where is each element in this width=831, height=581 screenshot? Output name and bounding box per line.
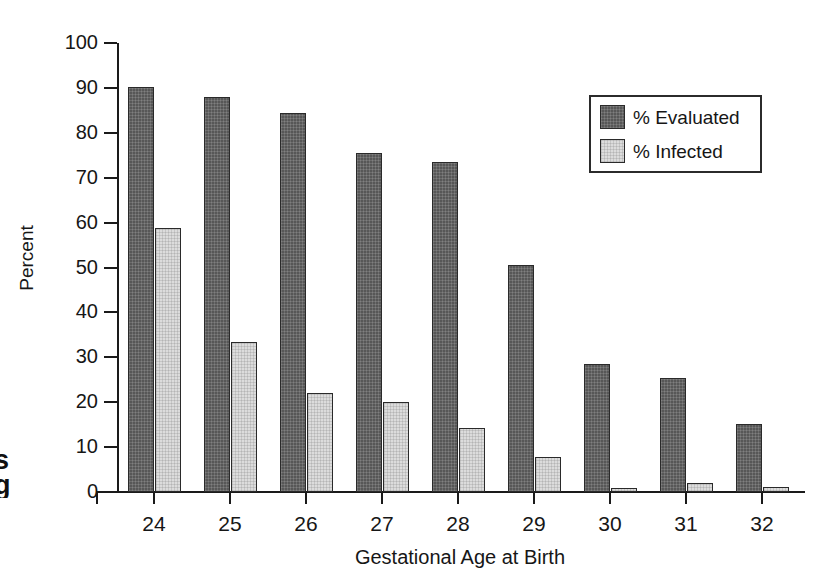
x-axis-tick (153, 492, 155, 504)
x-axis-tick-label: 25 (190, 512, 270, 536)
y-axis-tick-label-wrap: 20 (20, 391, 98, 411)
legend-label-evaluated: % Evaluated (633, 108, 740, 127)
bar-evaluated-27 (356, 153, 382, 492)
x-axis-tick-label: 31 (646, 512, 726, 536)
x-axis-tick-label: 26 (266, 512, 346, 536)
bar-infected-29 (535, 457, 561, 492)
y-axis-tick (104, 356, 117, 358)
y-axis-tick-label: 60 (28, 212, 98, 232)
x-axis-tick (533, 492, 535, 504)
y-axis-tick-label-wrap: 40 (20, 301, 98, 321)
y-axis-tick (104, 311, 117, 313)
y-axis-tick (104, 87, 117, 89)
x-axis-title: Gestational Age at Birth (118, 546, 802, 568)
y-axis-tick-label-wrap: 30 (20, 346, 98, 366)
y-axis-tick-label-wrap: 90 (20, 77, 98, 97)
x-axis-tick-label: 30 (570, 512, 650, 536)
bar-infected-28 (459, 428, 485, 492)
y-axis-tick-label: 100 (28, 32, 98, 52)
x-axis-tick (381, 492, 383, 504)
y-axis-tick-label-wrap: 10 (20, 436, 98, 456)
bar-evaluated-31 (660, 378, 686, 492)
y-axis-tick-label-wrap: 0 (20, 481, 98, 501)
y-axis-tick (104, 132, 117, 134)
page-margin-text-fragment: s g (0, 448, 20, 498)
y-axis-tick-label-wrap: 80 (20, 122, 98, 142)
bar-evaluated-30 (584, 364, 610, 492)
x-axis-tick (457, 492, 459, 504)
y-axis-tick-label-wrap: 60 (20, 212, 98, 232)
x-axis-tick (305, 492, 307, 504)
bar-evaluated-24 (128, 87, 154, 492)
bar-evaluated-28 (432, 162, 458, 492)
bar-infected-30 (611, 488, 637, 492)
x-axis-leading-tick (96, 492, 98, 504)
bar-evaluated-25 (204, 97, 230, 492)
bar-chart-figure: s g Percent 0102030405060708090100 24252… (0, 0, 831, 581)
x-axis-tick (761, 492, 763, 504)
x-axis-tick-label: 27 (342, 512, 422, 536)
y-axis-tick-label: 50 (28, 257, 98, 277)
y-axis-tick-label: 10 (28, 436, 98, 456)
legend-swatch-infected-icon (600, 139, 625, 163)
bar-evaluated-29 (508, 265, 534, 492)
y-axis-tick (104, 222, 117, 224)
x-axis-tick (609, 492, 611, 504)
y-axis-tick-label: 30 (28, 346, 98, 366)
legend-item-infected[interactable]: % Infected (600, 138, 723, 164)
y-axis-tick (104, 267, 117, 269)
y-axis-tick-label-wrap: 100 (20, 32, 98, 52)
y-axis-tick-label-wrap: 50 (20, 257, 98, 277)
bar-infected-32 (763, 487, 789, 492)
y-axis-tick-label: 90 (28, 77, 98, 97)
legend-label-infected: % Infected (633, 142, 723, 161)
x-axis-tick-label: 28 (418, 512, 498, 536)
y-axis-tick-label: 40 (28, 301, 98, 321)
legend-item-evaluated[interactable]: % Evaluated (600, 104, 740, 130)
y-axis-tick-label: 0 (28, 481, 98, 501)
y-axis-tick (104, 446, 117, 448)
y-axis-tick-label: 70 (28, 167, 98, 187)
bar-evaluated-32 (736, 424, 762, 492)
bar-infected-26 (307, 393, 333, 492)
y-axis-tick-label: 20 (28, 391, 98, 411)
bar-infected-31 (687, 483, 713, 492)
x-axis-tick-label: 29 (494, 512, 574, 536)
y-axis-tick (104, 42, 117, 44)
y-axis-tick (104, 401, 117, 403)
bar-infected-25 (231, 342, 257, 492)
chart-legend: % Evaluated % Infected (589, 95, 762, 173)
y-axis-tick-label-wrap: 70 (20, 167, 98, 187)
legend-swatch-evaluated-icon (600, 105, 625, 129)
x-axis-tick-label: 24 (114, 512, 194, 536)
bar-infected-24 (155, 228, 181, 492)
x-axis-tick-label: 32 (722, 512, 802, 536)
y-axis-tick-label: 80 (28, 122, 98, 142)
y-axis-tick (104, 177, 117, 179)
x-axis-tick (685, 492, 687, 504)
margin-fragment-line-2: g (0, 473, 20, 498)
bar-evaluated-26 (280, 113, 306, 492)
bar-infected-27 (383, 402, 409, 492)
x-axis-tick (229, 492, 231, 504)
